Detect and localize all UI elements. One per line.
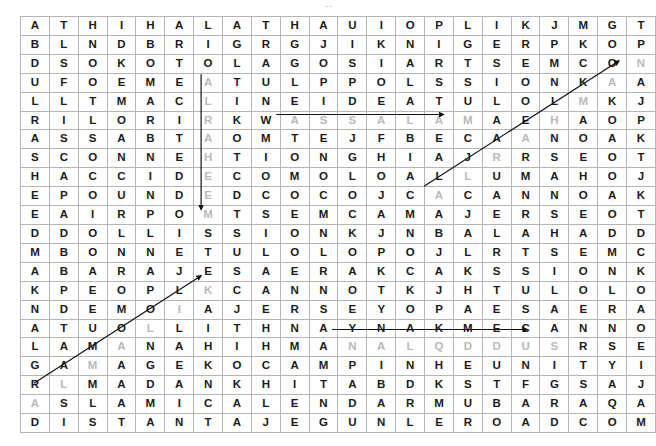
grid-cell[interactable]: G xyxy=(136,357,165,376)
grid-cell[interactable]: I xyxy=(136,168,165,187)
grid-cell[interactable]: O xyxy=(396,300,425,319)
grid-cell[interactable]: N xyxy=(540,130,569,149)
grid-cell[interactable]: H xyxy=(425,357,454,376)
grid-cell[interactable]: A xyxy=(136,92,165,111)
grid-cell[interactable]: A xyxy=(396,168,425,187)
grid-cell[interactable]: A xyxy=(598,376,627,395)
grid-cell[interactable]: K xyxy=(569,73,598,92)
grid-cell[interactable]: I xyxy=(309,92,338,111)
grid-cell[interactable]: T xyxy=(425,92,454,111)
grid-cell[interactable]: N xyxy=(540,187,569,206)
grid-cell[interactable]: P xyxy=(49,281,78,300)
grid-cell[interactable]: P xyxy=(136,281,165,300)
grid-cell[interactable]: B xyxy=(396,130,425,149)
grid-cell[interactable]: B xyxy=(49,243,78,262)
grid-cell[interactable]: U xyxy=(78,319,107,338)
grid-cell[interactable]: I xyxy=(396,149,425,168)
grid-cell[interactable]: L xyxy=(482,92,511,111)
grid-cell[interactable]: R xyxy=(280,300,309,319)
grid-cell[interactable]: O xyxy=(136,300,165,319)
grid-cell[interactable]: E xyxy=(280,414,309,433)
grid-cell[interactable]: O xyxy=(165,206,194,225)
grid-cell[interactable]: N xyxy=(598,319,627,338)
grid-cell[interactable]: E xyxy=(280,262,309,281)
grid-cell[interactable]: D xyxy=(49,300,78,319)
grid-cell[interactable]: K xyxy=(627,187,656,206)
grid-cell[interactable]: D xyxy=(540,414,569,433)
grid-cell[interactable]: E xyxy=(338,300,367,319)
grid-cell[interactable]: S xyxy=(309,300,338,319)
grid-cell[interactable]: A xyxy=(194,300,223,319)
grid-cell[interactable]: A xyxy=(21,395,50,414)
grid-cell[interactable]: S xyxy=(598,338,627,357)
grid-cell[interactable]: O xyxy=(280,149,309,168)
grid-cell[interactable]: J xyxy=(425,281,454,300)
grid-cell[interactable]: E xyxy=(165,357,194,376)
grid-cell[interactable]: D xyxy=(165,168,194,187)
grid-cell[interactable]: A xyxy=(425,187,454,206)
grid-cell[interactable]: D xyxy=(21,54,50,73)
grid-cell[interactable]: A xyxy=(251,281,280,300)
grid-cell[interactable]: A xyxy=(598,73,627,92)
grid-cell[interactable]: M xyxy=(453,319,482,338)
grid-cell[interactable]: O xyxy=(569,281,598,300)
grid-cell[interactable]: M xyxy=(78,376,107,395)
grid-cell[interactable]: K xyxy=(107,54,136,73)
grid-cell[interactable]: E xyxy=(482,300,511,319)
grid-cell[interactable]: S xyxy=(482,54,511,73)
grid-cell[interactable]: K xyxy=(194,357,223,376)
grid-cell[interactable]: N xyxy=(107,243,136,262)
grid-cell[interactable]: Y xyxy=(367,300,396,319)
grid-cell[interactable]: A xyxy=(511,414,540,433)
grid-cell[interactable]: F xyxy=(367,130,396,149)
grid-cell[interactable]: T xyxy=(165,130,194,149)
grid-cell[interactable]: N xyxy=(309,281,338,300)
grid-cell[interactable]: R xyxy=(540,395,569,414)
grid-cell[interactable]: E xyxy=(165,149,194,168)
grid-cell[interactable]: N xyxy=(598,262,627,281)
grid-cell[interactable]: O xyxy=(223,130,252,149)
grid-cell[interactable]: E xyxy=(425,130,454,149)
grid-cell[interactable]: L xyxy=(280,73,309,92)
grid-cell[interactable]: G xyxy=(453,35,482,54)
grid-cell[interactable]: F xyxy=(511,376,540,395)
grid-cell[interactable]: H xyxy=(251,319,280,338)
grid-cell[interactable]: N xyxy=(136,187,165,206)
grid-cell[interactable]: A xyxy=(223,395,252,414)
grid-cell[interactable]: A xyxy=(367,111,396,130)
grid-cell[interactable]: M xyxy=(569,92,598,111)
grid-cell[interactable]: I xyxy=(367,54,396,73)
grid-cell[interactable]: O xyxy=(598,111,627,130)
grid-cell[interactable]: A xyxy=(78,262,107,281)
grid-cell[interactable]: J xyxy=(309,35,338,54)
grid-cell[interactable]: A xyxy=(453,300,482,319)
grid-cell[interactable]: M xyxy=(107,300,136,319)
grid-cell[interactable]: A xyxy=(338,262,367,281)
grid-cell[interactable]: L xyxy=(540,92,569,111)
grid-cell[interactable]: T xyxy=(511,243,540,262)
grid-cell[interactable]: Q xyxy=(598,395,627,414)
grid-cell[interactable]: G xyxy=(21,357,50,376)
grid-cell[interactable]: P xyxy=(136,206,165,225)
grid-cell[interactable]: W xyxy=(251,111,280,130)
grid-cell[interactable]: E xyxy=(511,111,540,130)
grid-cell[interactable]: A xyxy=(627,300,656,319)
grid-cell[interactable]: J xyxy=(338,130,367,149)
grid-cell[interactable]: S xyxy=(540,243,569,262)
grid-cell[interactable]: T xyxy=(280,130,309,149)
grid-cell[interactable]: O xyxy=(482,414,511,433)
grid-cell[interactable]: N xyxy=(396,357,425,376)
grid-cell[interactable]: T xyxy=(223,73,252,92)
grid-cell[interactable]: O xyxy=(627,319,656,338)
grid-cell[interactable]: M xyxy=(21,243,50,262)
grid-cell[interactable]: N xyxy=(309,224,338,243)
grid-cell[interactable]: L xyxy=(482,224,511,243)
grid-cell[interactable]: A xyxy=(107,376,136,395)
grid-cell[interactable]: A xyxy=(396,92,425,111)
grid-cell[interactable]: C xyxy=(78,168,107,187)
grid-cell[interactable]: L xyxy=(165,319,194,338)
grid-cell[interactable]: T xyxy=(482,376,511,395)
grid-cell[interactable]: N xyxy=(338,338,367,357)
grid-cell[interactable]: M xyxy=(309,206,338,225)
grid-cell[interactable]: B xyxy=(49,262,78,281)
